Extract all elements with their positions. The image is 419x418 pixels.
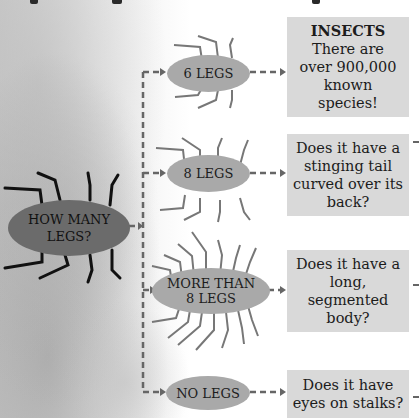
result-text-line: curved over its <box>293 175 403 193</box>
result-text-line: stinging tail <box>304 157 392 175</box>
branch-no-legs: NO LEGS <box>166 376 250 410</box>
branch-more-than-8-legs: MORE THAN 8 LEGS <box>152 268 270 314</box>
result-text-line: There are <box>312 40 384 58</box>
branch-6-legs-label: 6 LEGS <box>184 66 234 81</box>
result-box-stinging-tail: Does it have a stinging tail curved over… <box>287 134 409 216</box>
result-title-insects: INSECTS <box>311 22 385 40</box>
root-line1: HOW MANY <box>28 211 110 228</box>
result-text-line: Does it have a <box>296 139 400 157</box>
result-text-line: body? <box>326 309 369 327</box>
result-text-line: segmented <box>308 291 389 309</box>
branch-8-legs-label: 8 LEGS <box>184 166 234 181</box>
continuation-stub <box>413 141 419 143</box>
branch-6-legs: 6 LEGS <box>167 55 250 92</box>
result-text-line: known <box>324 76 373 94</box>
branch-more-line1: MORE THAN <box>167 276 255 291</box>
branch-no-legs-label: NO LEGS <box>176 386 240 401</box>
branch-more-line2: 8 LEGS <box>186 291 236 306</box>
result-text-line: long, <box>330 273 367 291</box>
result-box-eyes-on-stalks: Does it have eyes on stalks? <box>287 370 409 418</box>
result-box-segmented-body: Does it have a long, segmented body? <box>287 250 409 332</box>
root-node-how-many-legs: HOW MANY LEGS? <box>8 200 130 256</box>
result-text-line: over 900,000 <box>299 58 396 76</box>
branch-8-legs: 8 LEGS <box>167 155 250 192</box>
connector-lines <box>129 72 280 392</box>
result-box-insects: INSECTS There are over 900,000 known spe… <box>287 17 409 117</box>
result-text-line: Does it have a <box>296 255 400 273</box>
result-text-line: eyes on stalks? <box>293 394 404 412</box>
root-line2: LEGS? <box>47 228 91 245</box>
arrowhead-icons <box>138 68 286 396</box>
result-text-line: species! <box>318 94 378 112</box>
continuation-stub <box>413 284 419 286</box>
result-text-line: Does it have <box>303 376 394 394</box>
continuation-stub <box>413 396 419 398</box>
result-text-line: back? <box>327 193 370 211</box>
